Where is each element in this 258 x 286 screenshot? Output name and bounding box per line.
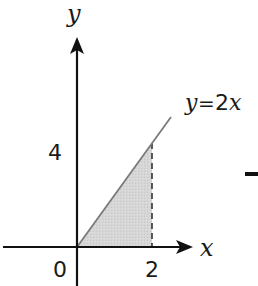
equation-lhs: y [184, 90, 198, 115]
equation-label: y = 2 x [184, 90, 242, 115]
x-axis-label: x [200, 234, 214, 262]
tick-label-y-4: 4 [48, 140, 62, 165]
equation-variable: x [229, 90, 242, 115]
y-axis-label: y [66, 0, 81, 28]
equation-coefficient: 2 [215, 90, 229, 115]
dash-mark [245, 172, 258, 176]
tick-label-origin: 0 [53, 257, 67, 282]
tick-label-x-2: 2 [145, 257, 159, 282]
equation-equals: = [198, 91, 215, 115]
diagram-canvas: y x 4 0 2 y = 2 x [0, 0, 258, 286]
